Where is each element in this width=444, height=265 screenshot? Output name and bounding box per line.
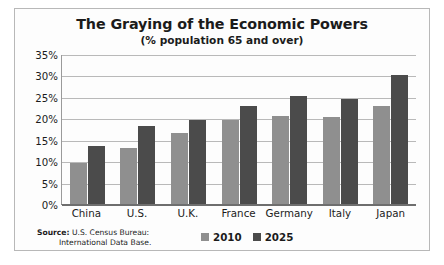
y-tick-label: 20% [35,114,58,125]
y-tick-label: 15% [35,135,58,146]
source-label: Source: [37,228,70,237]
bar-group [315,55,366,204]
bar-china-2010 [70,163,87,204]
y-tick-label: 25% [35,92,58,103]
bar-japan-2025 [391,75,408,204]
x-axis-label: China [61,207,112,219]
x-axis-label: France [213,207,264,219]
bar-group [365,55,416,204]
chart-subtitle: (% population 65 and over) [15,33,429,47]
chart-figure: The Graying of the Economic Powers (% po… [14,8,430,251]
source-note: Source: U.S. Census Bureau: Internationa… [37,228,151,248]
chart-title-block: The Graying of the Economic Powers (% po… [15,16,429,47]
plot-wrapper: 35%30%25%20%15%10%5%0% [15,55,429,205]
bar-us-2010 [120,148,137,204]
chart-title: The Graying of the Economic Powers [15,16,429,33]
gridline [62,205,416,206]
chart-footer: Source: U.S. Census Bureau: Internationa… [15,228,429,252]
y-tick-label: 0% [42,200,58,211]
bar-japan-2010 [373,106,390,204]
bar-us-2025 [138,126,155,204]
legend-swatch-icon [253,233,261,241]
source-line-2: International Data Base. [37,238,151,248]
bar-china-2025 [88,146,105,204]
x-axis-labels: ChinaU.S.U.K.FranceGermanyItalyJapan [61,207,416,219]
bars-layer [62,55,416,204]
bar-france-2025 [240,106,257,204]
x-axis-label: Japan [365,207,416,219]
chart-legend: 20102025 [201,231,293,243]
bar-uk-2010 [171,133,188,204]
x-axis-label: Germany [264,207,315,219]
y-axis: 35%30%25%20%15%10%5%0% [15,55,61,205]
bar-italy-2010 [323,117,340,204]
bar-germany-2010 [272,116,289,204]
bar-group [264,55,315,204]
y-tick-label: 5% [42,178,58,189]
y-tick-label: 10% [35,157,58,168]
source-line-1: U.S. Census Bureau: [72,228,149,237]
legend-item-2025[interactable]: 2025 [253,231,294,243]
bar-group [163,55,214,204]
y-tick-label: 35% [35,50,58,61]
legend-swatch-icon [201,233,209,241]
legend-label: 2010 [213,231,242,243]
bar-group [214,55,265,204]
bar-group [62,55,113,204]
plot-area [61,55,416,205]
bar-uk-2025 [189,120,206,204]
legend-label: 2025 [265,231,294,243]
bar-group [113,55,164,204]
bar-germany-2025 [290,96,307,204]
x-axis-label: Italy [315,207,366,219]
bar-italy-2025 [341,99,358,204]
x-axis-label: U.K. [162,207,213,219]
x-axis-label: U.S. [112,207,163,219]
y-tick-label: 30% [35,71,58,82]
bar-france-2010 [222,120,239,204]
legend-item-2010[interactable]: 2010 [201,231,242,243]
